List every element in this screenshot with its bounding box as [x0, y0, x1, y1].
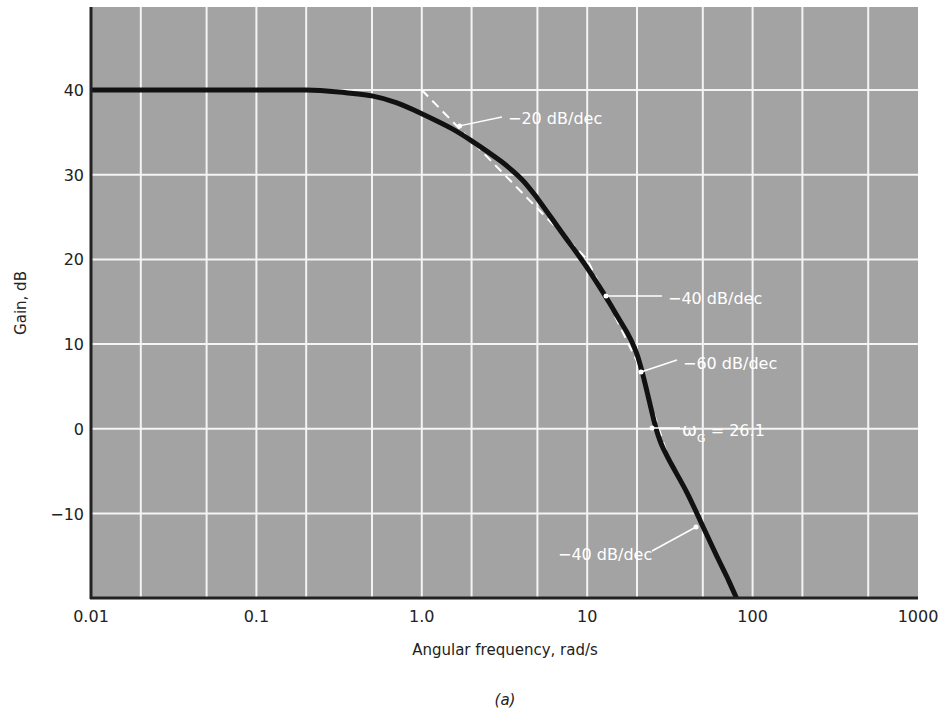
x-tick-label: 0.1: [244, 607, 269, 626]
y-tick-labels: −10010203040: [50, 81, 84, 524]
x-tick-label: 100: [737, 607, 768, 626]
x-tick-label: 1000: [898, 607, 939, 626]
annotation-label: −40 dB/dec: [558, 545, 652, 564]
y-tick-label: −10: [50, 505, 84, 524]
y-tick-label: 10: [64, 335, 84, 354]
arrowhead-icon: [650, 426, 655, 431]
y-tick-label: 40: [64, 81, 84, 100]
bode-gain-chart: −20 dB/dec−40 dB/dec−60 dB/decωG = 26.1−…: [0, 0, 942, 728]
arrowhead-icon: [639, 370, 644, 375]
y-tick-label: 30: [64, 166, 84, 185]
x-tick-labels: 0.010.11.0101001000: [73, 607, 938, 626]
arrowhead-icon: [694, 525, 699, 530]
annotation-label: −60 dB/dec: [683, 354, 777, 373]
figure-caption: (a): [495, 691, 516, 709]
x-tick-label: 1.0: [409, 607, 434, 626]
y-tick-label: 0: [74, 420, 84, 439]
y-axis-title: Gain, dB: [12, 271, 30, 335]
x-axis-title: Angular frequency, rad/s: [412, 641, 598, 659]
arrowhead-icon: [604, 294, 609, 299]
annotation-label: −40 dB/dec: [668, 289, 762, 308]
x-tick-label: 0.01: [73, 607, 109, 626]
plot-area: [91, 7, 918, 598]
annotation-label: −20 dB/dec: [508, 109, 602, 128]
x-tick-label: 10: [577, 607, 597, 626]
arrowhead-icon: [457, 123, 462, 128]
y-tick-label: 20: [64, 250, 84, 269]
